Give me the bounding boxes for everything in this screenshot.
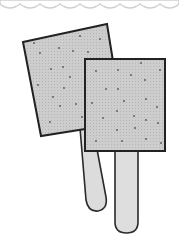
front-popsicle-stick — [115, 150, 138, 233]
front-popsicle-body — [85, 59, 165, 151]
scalloped-border — [0, 0, 179, 8]
popsicles-illustration — [0, 0, 179, 242]
